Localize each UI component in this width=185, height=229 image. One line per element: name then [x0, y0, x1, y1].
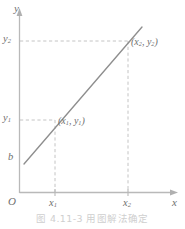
- point-label-2: (x2, y2): [131, 37, 158, 47]
- pt2-mid: , y: [142, 36, 151, 47]
- y1-sub: 1: [8, 116, 11, 123]
- pt1-mid: , y: [69, 115, 78, 126]
- y-tick-label-y1: y1: [3, 113, 11, 124]
- figure-container: y x O y2 y1 b x1 x2 (x2, y2) (x1, y1) 图 …: [0, 0, 185, 229]
- origin-label: O: [8, 196, 16, 207]
- y2-sub: 2: [8, 37, 11, 44]
- pt1-close: ): [81, 115, 84, 126]
- x-axis-label: x: [172, 197, 177, 208]
- x-tick-label-x2: x2: [123, 198, 131, 209]
- x1-sub: 1: [54, 201, 57, 208]
- linear-function-line: [24, 27, 142, 164]
- y-tick-label-y2: y2: [3, 34, 11, 45]
- pt2-close: ): [154, 36, 157, 47]
- plot-canvas: [0, 0, 185, 229]
- x-tick-label-x1: x1: [49, 198, 57, 209]
- point-label-1: (x1, y1): [58, 116, 85, 126]
- pt1-open: (x: [58, 115, 66, 126]
- pt2-open: (x: [131, 36, 139, 47]
- x2-sub: 2: [128, 201, 131, 208]
- x-axis-arrow-icon: [170, 190, 178, 196]
- y-axis-label: y: [14, 3, 19, 14]
- y-intercept-label: b: [8, 152, 13, 163]
- figure-caption: 图 4.11-3 用图解法确定: [0, 211, 185, 225]
